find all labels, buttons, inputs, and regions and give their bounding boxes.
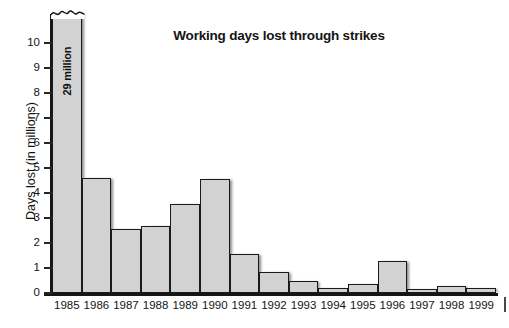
x-tick-label-1990: 1990 xyxy=(198,300,232,312)
x-tick-label-1994: 1994 xyxy=(316,300,350,312)
bar-1998 xyxy=(437,286,467,293)
y-tick-2 xyxy=(44,242,52,244)
page-edge-artifact xyxy=(504,297,506,312)
y-tick-label-7: 7 xyxy=(12,112,40,124)
bar-1997 xyxy=(407,289,437,293)
bar-1994 xyxy=(318,288,348,293)
bar-1996 xyxy=(378,261,408,294)
bar-chart-figure: Working days lost through strikes Days l… xyxy=(0,0,509,328)
x-tick-label-1998: 1998 xyxy=(435,300,469,312)
y-tick-0 xyxy=(44,292,52,294)
y-tick-1 xyxy=(44,267,52,269)
x-tick-label-1997: 1997 xyxy=(405,300,439,312)
y-tick-label-0: 0 xyxy=(12,287,40,299)
y-tick-label-1: 1 xyxy=(12,262,40,274)
bar-1987 xyxy=(111,229,141,293)
bar-1999 xyxy=(466,288,496,294)
y-tick-label-3: 3 xyxy=(12,212,40,224)
y-tick-5 xyxy=(44,167,52,169)
y-tick-4 xyxy=(44,192,52,194)
y-tick-label-10: 10 xyxy=(12,37,40,49)
bar-1993 xyxy=(289,281,319,293)
x-tick-label-1996: 1996 xyxy=(376,300,410,312)
bar-1986 xyxy=(82,178,112,293)
x-tick-label-1989: 1989 xyxy=(168,300,202,312)
x-tick-label-1999: 1999 xyxy=(464,300,498,312)
x-tick-label-1985: 1985 xyxy=(50,300,84,312)
y-tick-9 xyxy=(44,67,52,69)
bar-1988 xyxy=(141,226,171,294)
bar-1995 xyxy=(348,284,378,294)
x-tick-label-1987: 1987 xyxy=(109,300,143,312)
y-tick-label-2: 2 xyxy=(12,237,40,249)
x-tick-label-1991: 1991 xyxy=(228,300,262,312)
x-axis-line xyxy=(44,293,498,296)
chart-title: Working days lost through strikes xyxy=(134,28,424,43)
y-tick-6 xyxy=(44,142,52,144)
x-tick-label-1988: 1988 xyxy=(139,300,173,312)
x-tick-label-1986: 1986 xyxy=(80,300,114,312)
bar-1989 xyxy=(170,204,200,293)
y-tick-7 xyxy=(44,117,52,119)
x-tick-label-1993: 1993 xyxy=(287,300,321,312)
y-tick-10 xyxy=(44,42,52,44)
bar-1985: 29 million xyxy=(52,13,82,293)
y-tick-label-6: 6 xyxy=(12,137,40,149)
y-tick-label-9: 9 xyxy=(12,62,40,74)
bar-1990 xyxy=(200,179,230,293)
y-tick-label-8: 8 xyxy=(12,87,40,99)
y-tick-label-4: 4 xyxy=(12,187,40,199)
y-tick-8 xyxy=(44,92,52,94)
bar-value-annotation-1985: 29 million xyxy=(61,47,73,96)
bar-1991 xyxy=(230,254,260,293)
y-tick-3 xyxy=(44,217,52,219)
bar-1992 xyxy=(259,272,289,293)
y-tick-label-5: 5 xyxy=(12,162,40,174)
axis-break-icon xyxy=(51,6,83,18)
x-tick-label-1995: 1995 xyxy=(346,300,380,312)
x-tick-label-1992: 1992 xyxy=(257,300,291,312)
